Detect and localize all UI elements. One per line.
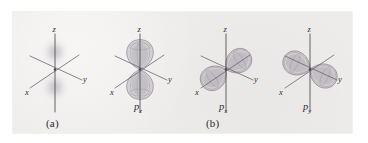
caption-a: (a) bbox=[46, 117, 59, 129]
axis-label-z: z bbox=[307, 24, 312, 34]
axis-label-y: y bbox=[82, 74, 87, 84]
panel-a-electron-cloud: z x y bbox=[13, 12, 98, 133]
axis-label-z: z bbox=[137, 24, 142, 34]
caption-b: (b) bbox=[206, 117, 219, 129]
axis-label-z: z bbox=[223, 24, 228, 34]
axis-label-x: x bbox=[278, 87, 283, 97]
orbital-label-pz-subscript: z bbox=[139, 107, 142, 115]
axis-label-x: x bbox=[194, 87, 199, 97]
origin-point bbox=[54, 68, 57, 71]
axis-label-y: y bbox=[337, 74, 342, 84]
axis-label-y: y bbox=[167, 74, 172, 84]
axis-label-x: x bbox=[109, 87, 114, 97]
axis-label-y: y bbox=[253, 74, 258, 84]
orbital-label-px: px bbox=[219, 101, 227, 115]
orbital-label-px-subscript: x bbox=[224, 107, 227, 115]
origin-point bbox=[139, 68, 142, 71]
axis-label-z: z bbox=[52, 24, 57, 34]
orbital-figure: z x y z x y bbox=[0, 0, 368, 143]
orbital-label-py-subscript: y bbox=[308, 107, 311, 115]
orbital-label-py: py bbox=[303, 101, 311, 115]
origin-point bbox=[225, 68, 228, 71]
orbital-label-pz: pz bbox=[134, 101, 142, 115]
axis-label-x: x bbox=[24, 87, 29, 97]
origin-point bbox=[309, 68, 312, 71]
panel-a-svg: z x y bbox=[13, 12, 98, 133]
